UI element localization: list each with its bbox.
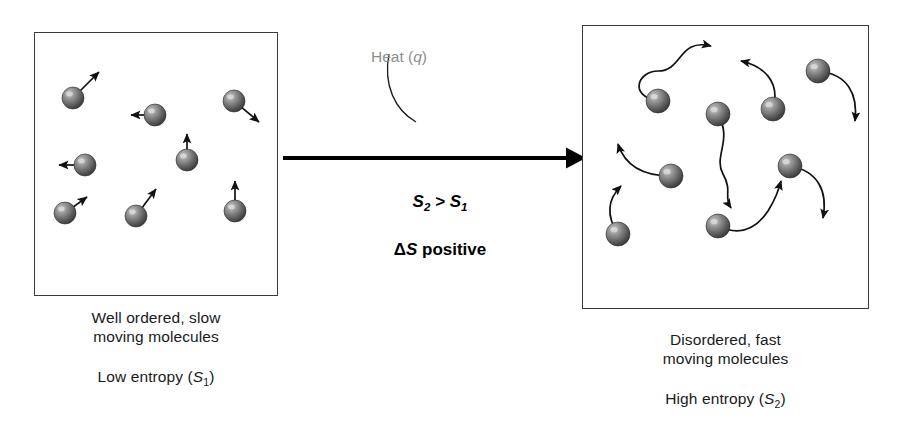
molecule-1-highlight <box>650 94 657 99</box>
molecule-7-highlight <box>129 210 136 215</box>
molecule-5-highlight <box>663 169 670 174</box>
molecule-8-highlight <box>228 205 235 210</box>
high-entropy-molecules <box>583 26 867 307</box>
molecule-5 <box>176 149 198 171</box>
molecule-4 <box>806 59 830 83</box>
molecule-5 <box>659 164 683 188</box>
high-entropy-value: High entropy (S2) <box>582 389 869 414</box>
low-entropy-symbol: S <box>193 368 203 385</box>
molecule-7-highlight <box>610 227 617 232</box>
delta-entropy-statement: ΔS positive <box>340 240 540 260</box>
high-entropy-caption-line1: Disordered, fast <box>582 330 869 349</box>
heat-label: Heat (q) <box>371 48 427 66</box>
heat-arrow-group <box>283 140 586 180</box>
molecule-2-highlight <box>148 109 155 114</box>
high-entropy-caption-line2: moving molecules <box>582 349 869 368</box>
high-entropy-prefix: High entropy ( <box>665 390 764 407</box>
comparison-rhs-sub: 1 <box>461 201 467 213</box>
comparison-operator: > <box>435 192 445 211</box>
molecule-4-highlight <box>78 159 85 164</box>
molecule-6-highlight <box>782 159 789 164</box>
high-entropy-caption: Disordered, fast moving molecules High e… <box>582 330 869 414</box>
molecule-2 <box>144 104 166 126</box>
comparison-lhs: S <box>413 192 424 211</box>
delta-variable: S <box>406 240 417 259</box>
low-entropy-container <box>34 32 278 296</box>
molecule-1 <box>62 87 84 109</box>
molecule-7 <box>606 222 630 246</box>
molecule-2 <box>706 102 730 126</box>
low-entropy-caption: Well ordered, slow moving molecules Low … <box>34 308 278 392</box>
molecule-5-highlight <box>180 154 187 159</box>
delta-symbol: Δ <box>394 240 406 259</box>
molecule-6 <box>54 202 76 224</box>
molecule-8 <box>224 200 246 222</box>
heat-symbol: q <box>413 48 422 65</box>
low-entropy-value: Low entropy (S1) <box>34 367 278 392</box>
molecule-1-highlight <box>66 92 73 97</box>
entropy-diagram: Well ordered, slow moving molecules Low … <box>0 0 900 447</box>
low-entropy-prefix: Low entropy ( <box>98 368 193 385</box>
heat-label-suffix: ) <box>422 48 427 65</box>
low-entropy-suffix: ) <box>209 368 214 385</box>
molecule-8-highlight <box>710 219 717 224</box>
molecule-4-highlight <box>810 64 817 69</box>
molecule-4 <box>74 154 96 176</box>
molecule-7 <box>125 205 147 227</box>
molecule-3-highlight <box>227 95 234 100</box>
molecule-6-highlight <box>58 207 65 212</box>
trajectory-arrow-2 <box>718 114 731 208</box>
heat-label-prefix: Heat ( <box>371 48 413 65</box>
comparison-rhs: S <box>450 192 461 211</box>
molecule-3 <box>761 97 785 121</box>
low-entropy-molecules <box>35 33 276 294</box>
high-entropy-symbol: S <box>764 390 774 407</box>
molecule-2-highlight <box>710 107 717 112</box>
delta-word: positive <box>422 240 486 259</box>
entropy-comparison: S2 > S1 <box>340 192 540 213</box>
molecule-1 <box>646 89 670 113</box>
low-entropy-caption-line1: Well ordered, slow <box>34 308 278 327</box>
molecule-6 <box>778 154 802 178</box>
molecule-8 <box>706 214 730 238</box>
molecule-3 <box>223 90 245 112</box>
molecule-3-highlight <box>765 102 772 107</box>
high-entropy-suffix: ) <box>780 390 785 407</box>
low-entropy-caption-line2: moving molecules <box>34 327 278 346</box>
high-entropy-container <box>582 25 869 309</box>
